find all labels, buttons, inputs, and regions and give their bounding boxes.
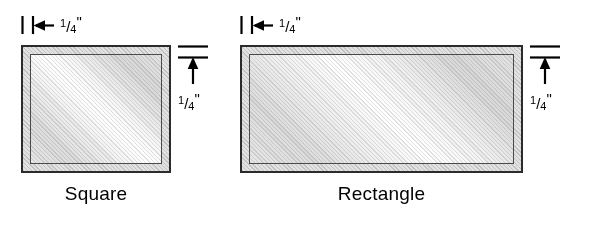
square-caption: Square: [21, 183, 171, 205]
rectangle-caption: Rectangle: [240, 183, 523, 205]
square-frame-figure: [21, 45, 171, 173]
rectangle-frame-figure: [240, 45, 523, 173]
rectangle-frame-inner-border: [249, 54, 514, 164]
inch-mark: ": [194, 90, 199, 107]
square-width-callout: 1/4": [20, 13, 130, 39]
rectangle-height-label: 1/4": [530, 91, 551, 113]
square-height-callout: 1/4": [176, 44, 234, 124]
inch-mark: ": [76, 13, 81, 30]
rectangle-width-callout: 1/4": [239, 13, 349, 39]
inch-mark: ": [546, 90, 551, 107]
rectangle-height-callout: 1/4": [528, 44, 586, 124]
diagram-canvas: 1/4" 1/4" Square: [0, 0, 593, 228]
rectangle-height-callout-arrow-icon: [528, 44, 568, 92]
square-height-label: 1/4": [178, 91, 199, 113]
rectangle-width-label: 1/4": [279, 14, 300, 36]
square-frame-inner-border: [30, 54, 162, 164]
square-width-label: 1/4": [60, 14, 81, 36]
inch-mark: ": [295, 13, 300, 30]
rectangle-frame-glass-texture: [250, 55, 513, 163]
square-height-callout-arrow-icon: [176, 44, 216, 92]
square-frame-glass-texture: [31, 55, 161, 163]
